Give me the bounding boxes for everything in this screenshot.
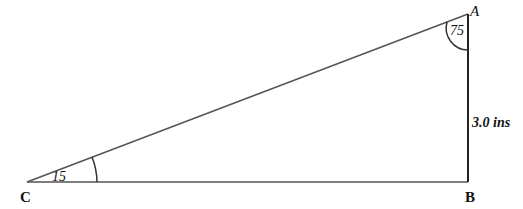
side-label-ab: 3.0 ins	[471, 115, 511, 130]
vertex-label-b: B	[465, 189, 475, 205]
vertex-label-a: A	[469, 3, 480, 19]
vertex-label-c: C	[20, 189, 31, 205]
side-ca	[27, 14, 468, 182]
angle-label-a: 75	[450, 23, 464, 38]
angle-label-c: 15	[52, 169, 66, 184]
angle-arc-c	[92, 157, 97, 182]
triangle-diagram: A B C 75 15 3.0 ins	[0, 0, 523, 209]
